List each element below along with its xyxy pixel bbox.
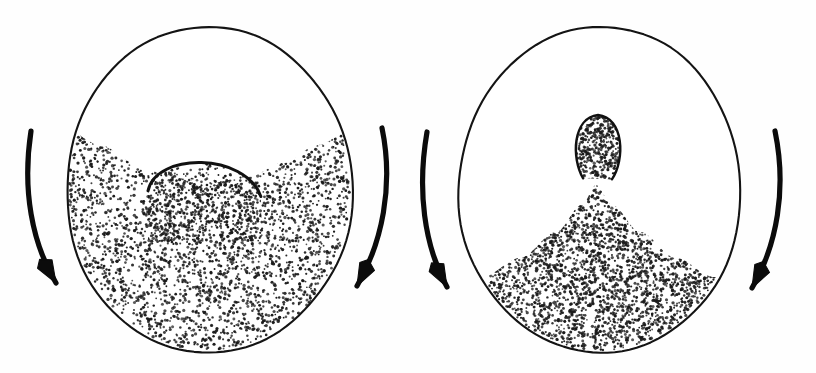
figure-root bbox=[0, 0, 816, 373]
rotation-arrow-head-icon bbox=[429, 263, 447, 287]
left-panel bbox=[28, 27, 387, 352]
rotation-arrow-left-inner bbox=[357, 128, 387, 286]
granular-drum-figure bbox=[0, 0, 816, 373]
rotation-arrow-left-outer bbox=[28, 131, 56, 283]
rotation-arrow-head-icon bbox=[38, 259, 56, 283]
right-panel bbox=[423, 27, 780, 353]
rotation-arrow-head-icon bbox=[752, 262, 770, 288]
rotation-arrow-head-icon bbox=[357, 260, 375, 286]
rotation-arrow-right-inner bbox=[752, 131, 780, 288]
rotation-arrow-right-outer bbox=[423, 132, 447, 287]
